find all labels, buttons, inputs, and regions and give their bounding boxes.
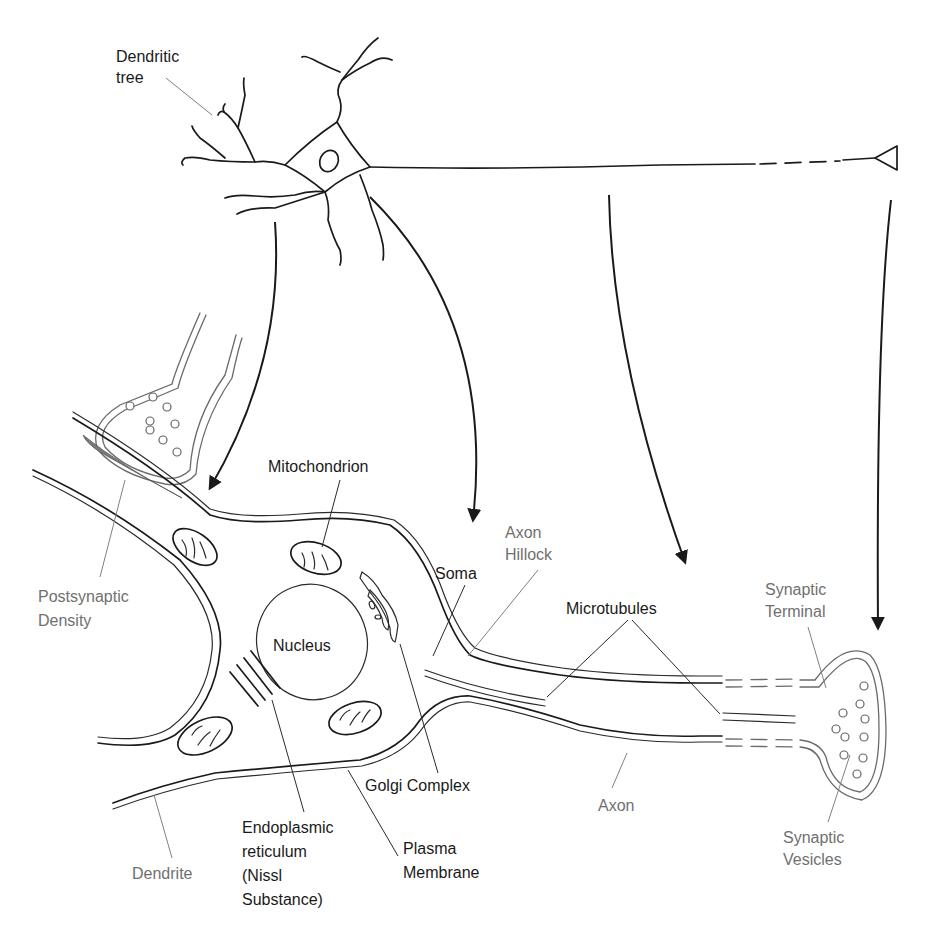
schematic-nucleus [316, 147, 342, 175]
label-microtubules: Microtubules [566, 600, 657, 617]
label-synaptic-vesicles: Synaptic Vesicles [783, 829, 849, 868]
schematic-soma [285, 122, 370, 192]
presynaptic-terminal [96, 313, 242, 485]
label-axon-hillock: Axon Hillock [505, 524, 553, 563]
label-dendritic-tree: Dendritic tree [116, 48, 184, 86]
axon-continuation [425, 670, 800, 747]
label-soma: Soma [435, 565, 477, 582]
mitochondrion [325, 695, 386, 740]
schematic-terminal [875, 146, 897, 170]
label-plasma-membrane: Plasma Membrane [403, 840, 480, 881]
labels: Dendritic tree Mitochondrion Postsynapti… [38, 48, 849, 908]
mitochondrion [287, 536, 346, 581]
label-nucleus: Nucleus [273, 637, 331, 654]
label-endoplasmic-reticulum: Endoplasmic reticulum (Nissl Substance) [242, 819, 338, 908]
label-mitochondrion: Mitochondrion [268, 458, 369, 475]
schematic-neuron [182, 38, 897, 265]
postsynaptic-density [83, 435, 182, 498]
label-axon: Axon [598, 797, 634, 814]
zoom-arrows [210, 195, 891, 628]
label-synaptic-terminal: Synaptic Terminal [765, 581, 831, 620]
endoplasmic-reticulum [230, 651, 280, 706]
schematic-axon [370, 164, 755, 168]
neuron-diagram: Dendritic tree Mitochondrion Postsynapti… [0, 0, 925, 934]
label-dendrite: Dendrite [132, 865, 193, 882]
label-postsynaptic-density: Postsynaptic Density [38, 588, 133, 629]
label-golgi-complex: Golgi Complex [365, 777, 470, 794]
mitochondrion [166, 521, 223, 573]
